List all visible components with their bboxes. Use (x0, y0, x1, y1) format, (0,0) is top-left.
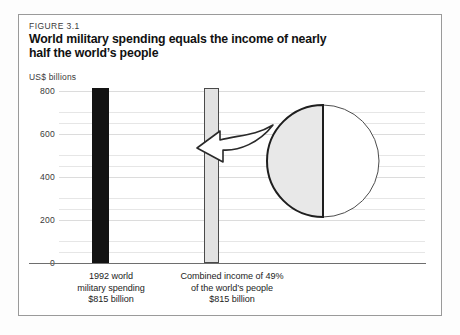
figure-title-line-2: half the world’s people (29, 46, 429, 60)
figure-number: FIGURE 3.1 (29, 21, 80, 31)
bar-military-spending (92, 88, 109, 263)
arrow-shape (197, 125, 273, 162)
figure-title-line-1: World military spending equals the incom… (29, 32, 327, 46)
annotation-arrow (193, 121, 283, 175)
gridline-800 (59, 91, 425, 92)
gridline-50 (59, 252, 425, 253)
pie-slice-remaining-51 (323, 105, 379, 217)
y-tick-label-600: 600 (29, 129, 55, 139)
arrow-svg (193, 121, 283, 175)
y-tick-label-400: 400 (29, 172, 55, 182)
caption-income-line-1: Combined income of 49% (147, 271, 317, 283)
caption-income-line-2: of the world’s people (147, 283, 317, 295)
bar-combined-income (204, 88, 219, 263)
plot-area: 800 600 400 200 0 (29, 87, 425, 263)
category-caption-income: Combined income of 49% of the world’s pe… (147, 271, 317, 306)
y-tick-label-200: 200 (29, 215, 55, 225)
gridline-100 (59, 241, 425, 242)
x-axis-baseline (29, 263, 426, 264)
caption-income-line-3: $815 billion (147, 294, 317, 306)
y-axis-unit-label: US$ billions (29, 72, 76, 82)
figure-frame: FIGURE 3.1 World military spending equal… (18, 14, 442, 316)
y-tick-label-800: 800 (29, 86, 55, 96)
figure-title: World military spending equals the incom… (29, 32, 429, 61)
figure-root: FIGURE 3.1 World military spending equal… (0, 0, 460, 335)
